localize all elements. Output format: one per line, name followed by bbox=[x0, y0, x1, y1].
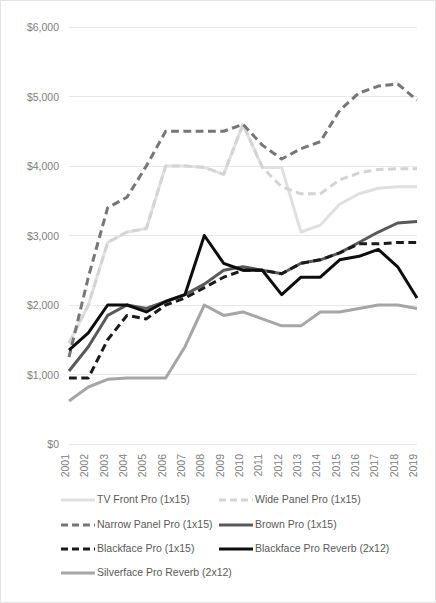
x-axis-label: 2004 bbox=[117, 454, 129, 478]
x-axis-label: 2011 bbox=[252, 454, 264, 477]
legend-label: TV Front Pro (1x15) bbox=[97, 493, 190, 505]
series-line bbox=[69, 124, 417, 343]
legend-label: Narrow Panel Pro (1x15) bbox=[97, 518, 213, 530]
x-axis-label: 2001 bbox=[59, 454, 71, 478]
series-line bbox=[69, 242, 417, 378]
y-axis-label: $0 bbox=[47, 438, 59, 450]
x-axis-label: 2012 bbox=[272, 454, 284, 478]
legend-label: Blackface Pro (1x15) bbox=[97, 542, 194, 554]
x-axis-label: 2010 bbox=[233, 454, 245, 478]
x-axis-label: 2019 bbox=[407, 454, 419, 478]
line-chart-card: $6,000$5,000$4,000$3,000$2,000$1,000$0 2… bbox=[0, 0, 436, 603]
vintage-amp-price-line-chart: $6,000$5,000$4,000$3,000$2,000$1,000$0 2… bbox=[1, 1, 436, 603]
x-axis-label: 2013 bbox=[291, 454, 303, 478]
x-axis-label: 2017 bbox=[368, 454, 380, 478]
chart-legend: TV Front Pro (1x15)Wide Panel Pro (1x15)… bbox=[61, 493, 389, 578]
x-axis-label: 2002 bbox=[78, 454, 90, 478]
y-axis-label: $1,000 bbox=[27, 369, 59, 381]
x-axis-label: 2003 bbox=[98, 454, 110, 478]
series-line bbox=[69, 236, 417, 351]
x-axis-label: 2007 bbox=[175, 454, 187, 478]
x-axis-label: 2018 bbox=[388, 454, 400, 478]
x-axis-label: 2015 bbox=[330, 454, 342, 478]
x-axis-label: 2014 bbox=[310, 454, 322, 478]
x-axis-label: 2016 bbox=[349, 454, 361, 478]
x-axis-label: 2005 bbox=[136, 454, 148, 478]
data-series-lines bbox=[69, 84, 417, 401]
y-axis-tick-labels: $6,000$5,000$4,000$3,000$2,000$1,000$0 bbox=[27, 21, 59, 450]
x-axis-label: 2009 bbox=[214, 454, 226, 478]
y-axis-label: $6,000 bbox=[27, 21, 59, 33]
series-line bbox=[69, 305, 417, 401]
y-axis-label: $4,000 bbox=[27, 160, 59, 172]
y-axis-label: $2,000 bbox=[27, 299, 59, 311]
legend-label: Silverface Pro Reverb (2x12) bbox=[97, 566, 232, 578]
y-axis-label: $5,000 bbox=[27, 91, 59, 103]
x-axis-tick-labels: 2001200220032004200520062007200820092010… bbox=[59, 454, 419, 478]
legend-label: Blackface Pro Reverb (2x12) bbox=[255, 542, 389, 554]
x-axis-label: 2008 bbox=[194, 454, 206, 478]
y-axis-label: $3,000 bbox=[27, 230, 59, 242]
x-axis-label: 2006 bbox=[156, 454, 168, 478]
legend-label: Wide Panel Pro (1x15) bbox=[255, 493, 361, 505]
legend-label: Brown Pro (1x15) bbox=[255, 518, 337, 530]
